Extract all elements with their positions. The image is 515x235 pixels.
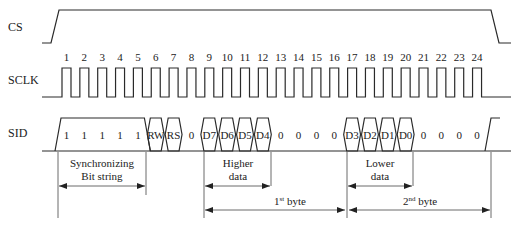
clock-number: 18 <box>364 51 376 63</box>
clock-number: 8 <box>189 51 195 63</box>
sid-bit-7: RS <box>167 129 180 141</box>
clock-number: 16 <box>329 51 341 63</box>
sid-bit-6: RW <box>147 129 165 141</box>
lower-data-line1: Lower <box>366 157 395 169</box>
clock-number: 3 <box>99 51 105 63</box>
clock-number: 4 <box>117 51 123 63</box>
clock-number: 10 <box>222 51 234 63</box>
sid-bit-12: D4 <box>256 129 270 141</box>
sid-bit-24: 0 <box>474 129 480 141</box>
higher-data-line2: data <box>229 170 247 182</box>
clock-number: 19 <box>382 51 394 63</box>
clock-number: 17 <box>347 51 359 63</box>
clock-number: 14 <box>293 51 305 63</box>
sid-bit-21: 0 <box>421 129 427 141</box>
sid-bit-16: 0 <box>332 129 338 141</box>
sid-bit-3: 1 <box>99 129 105 141</box>
clock-number: 13 <box>275 51 287 63</box>
sid-bit-5: 1 <box>135 129 141 141</box>
sid-bit-19: D1 <box>381 129 394 141</box>
sid-bit-8: 0 <box>189 129 195 141</box>
sclk-label: SCLK <box>8 73 39 87</box>
sid-bit-1: 1 <box>64 129 70 141</box>
serial-timing-diagram: CS SCLK SID 1234567891011121314151617181… <box>0 0 515 235</box>
sid-bit-labels: 11111RWRS0D7D6D5D40000D3D2D1D00000 <box>64 129 481 141</box>
clock-number: 15 <box>311 51 323 63</box>
sid-bit-4: 1 <box>117 129 123 141</box>
sid-bit-13: 0 <box>278 129 284 141</box>
cs-waveform <box>42 10 511 43</box>
sid-bit-9: D7 <box>203 129 217 141</box>
lower-data-line2: data <box>371 170 389 182</box>
clock-number: 20 <box>400 51 412 63</box>
sid-bit-23: 0 <box>456 129 462 141</box>
sclk-waveform <box>42 68 511 97</box>
second-byte-label: 2nd byte <box>403 195 437 207</box>
clock-number: 22 <box>436 51 447 63</box>
cs-label: CS <box>8 20 23 34</box>
clock-number: 24 <box>472 51 484 63</box>
sid-bit-18: D2 <box>363 129 376 141</box>
sid-bit-14: 0 <box>296 129 302 141</box>
clock-number: 11 <box>240 51 251 63</box>
sid-bit-17: D3 <box>345 129 359 141</box>
clock-number: 1 <box>64 51 70 63</box>
clock-number: 5 <box>135 51 141 63</box>
clock-number: 6 <box>153 51 159 63</box>
clock-number: 23 <box>454 51 466 63</box>
sync-label-line1: Synchronizing <box>70 157 135 169</box>
sid-bit-20: D0 <box>399 129 413 141</box>
clock-number: 7 <box>171 51 177 63</box>
sid-label: SID <box>8 126 28 140</box>
sid-bit-11: D5 <box>238 129 252 141</box>
sid-bit-2: 1 <box>82 129 88 141</box>
sid-bit-10: D6 <box>220 129 234 141</box>
clock-number: 12 <box>257 51 268 63</box>
clock-number-labels: 123456789101112131415161718192021222324 <box>64 51 483 63</box>
sid-bit-22: 0 <box>439 129 445 141</box>
clock-number: 2 <box>82 51 88 63</box>
clock-number: 9 <box>207 51 213 63</box>
sync-label-line2: Bit string <box>81 170 123 182</box>
clock-number: 21 <box>418 51 429 63</box>
higher-data-line1: Higher <box>223 157 254 169</box>
sid-bit-15: 0 <box>314 129 320 141</box>
first-byte-label: 1st byte <box>274 195 306 207</box>
